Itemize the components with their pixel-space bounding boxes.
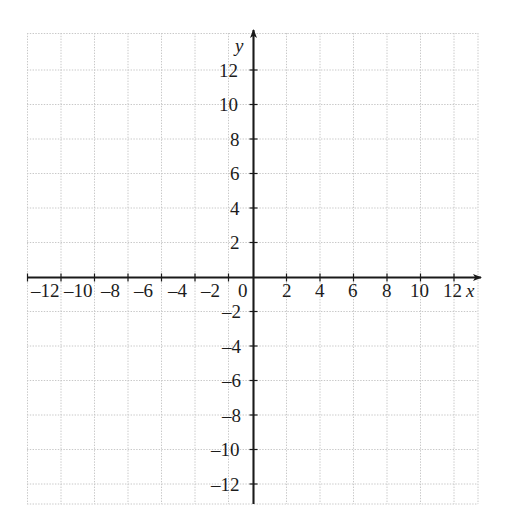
y-axis-label: y [235,36,243,55]
x-tick-label-12: 12 [443,281,462,300]
x-tick-label--4: –4 [168,281,187,300]
y-tick-label-12: 12 [219,61,238,80]
y-tick-label--6: –6 [222,371,241,390]
y-tick-label--10: –10 [211,440,240,459]
grid-and-axes [0,0,509,532]
y-tick-label-2: 2 [230,233,240,252]
x-tick-label--6: –6 [134,281,153,300]
x-tick-label--8: –8 [101,281,120,300]
y-tick-label-6: 6 [230,164,240,183]
y-tick-label--8: –8 [222,406,241,425]
x-tick-label-10: 10 [410,281,429,300]
coordinate-plane: –12 –10 –8 –6 –4 –2 0 2 4 6 8 10 12 12 1… [0,0,509,532]
y-tick-label-4: 4 [230,199,240,218]
y-tick-label--2: –2 [222,302,241,321]
y-tick-label--12: –12 [211,475,240,494]
y-tick-label-10: 10 [219,95,238,114]
x-tick-label-4: 4 [315,281,325,300]
x-tick-label-0: 0 [238,281,248,300]
x-tick-label--2: –2 [201,281,220,300]
x-tick-label-8: 8 [382,281,392,300]
x-axis-label: x [466,281,474,300]
y-tick-label-8: 8 [230,130,240,149]
x-tick-label--12: –12 [31,281,60,300]
x-tick-label--10: –10 [64,281,93,300]
y-tick-label--4: –4 [222,337,241,356]
x-tick-label-2: 2 [282,281,292,300]
x-tick-label-6: 6 [348,281,358,300]
